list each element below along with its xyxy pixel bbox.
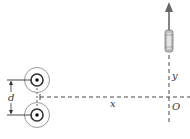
particle-velocity-arrow-icon: [165, 2, 173, 30]
label-d: d: [8, 92, 14, 103]
label-origin: O: [172, 101, 180, 112]
d-arrow-up-icon: [9, 81, 13, 86]
moving-particle-icon: [165, 30, 173, 52]
diagram-canvas: d x y O: [0, 0, 190, 139]
d-arrow-down-icon: [9, 110, 13, 115]
label-y: y: [171, 70, 178, 81]
label-x: x: [110, 98, 116, 109]
